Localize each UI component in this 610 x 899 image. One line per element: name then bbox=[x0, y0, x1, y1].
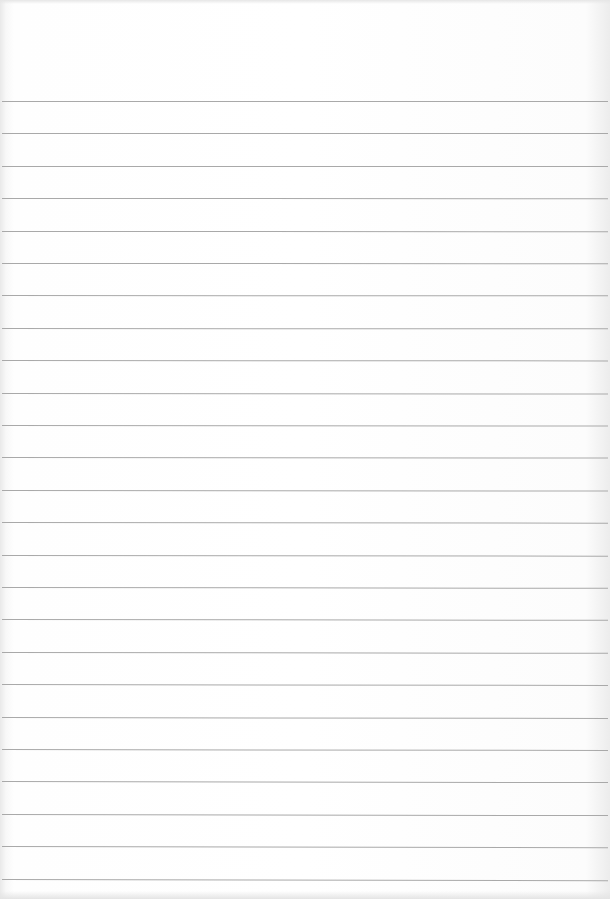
ruled-line bbox=[2, 457, 608, 459]
ruled-line bbox=[2, 846, 608, 848]
ruled-line bbox=[2, 652, 608, 654]
ruled-paper-sheet bbox=[0, 0, 610, 899]
ruled-line bbox=[2, 879, 608, 881]
ruled-line bbox=[2, 619, 608, 621]
ruled-line bbox=[2, 393, 608, 394]
ruled-line bbox=[2, 133, 608, 134]
ruled-line bbox=[2, 749, 608, 751]
ruled-line bbox=[2, 587, 608, 589]
ruled-line bbox=[2, 295, 608, 296]
ruled-line bbox=[2, 425, 608, 427]
ruled-line bbox=[2, 555, 608, 557]
paper-top-edge bbox=[0, 0, 610, 4]
ruled-line bbox=[2, 781, 608, 783]
ruled-line bbox=[2, 263, 608, 264]
ruled-line bbox=[2, 198, 608, 199]
ruled-line bbox=[2, 490, 608, 492]
ruled-line bbox=[2, 522, 608, 524]
ruled-line bbox=[2, 360, 608, 361]
ruled-line bbox=[2, 717, 608, 719]
ruled-line bbox=[2, 684, 608, 686]
ruled-line bbox=[2, 814, 608, 816]
paper-bottom-edge bbox=[0, 891, 610, 899]
ruled-line bbox=[2, 101, 608, 102]
ruled-line bbox=[2, 328, 608, 329]
ruled-line bbox=[2, 166, 608, 167]
ruled-line bbox=[2, 231, 608, 232]
